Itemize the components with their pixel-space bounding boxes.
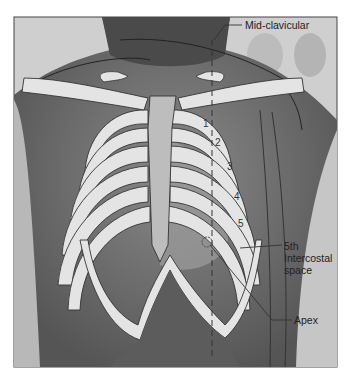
rib-number-5: 5	[238, 218, 244, 229]
label-5th-intercostal-space: 5th Intercostal space	[284, 240, 332, 276]
rib-number-2: 2	[215, 137, 221, 148]
chest-diagram: 1 2 3 4 5 Mid-clavicular 5th Intercostal…	[0, 0, 349, 378]
rib-number-3: 3	[227, 161, 233, 172]
label-line-space: space	[284, 264, 332, 276]
label-apex: Apex	[294, 314, 318, 326]
rib-number-4: 4	[234, 191, 240, 202]
label-line-5th: 5th	[284, 240, 332, 252]
label-mid-clavicular: Mid-clavicular	[245, 19, 309, 31]
rib-number-1: 1	[203, 118, 209, 129]
label-line-intercostal: Intercostal	[284, 252, 332, 264]
